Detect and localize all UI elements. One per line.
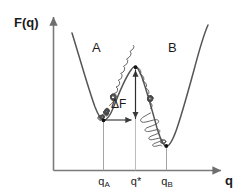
axis-group	[54, 17, 222, 171]
basin-a-minimum-marker	[102, 118, 106, 122]
wiggly-path-left-climb	[104, 108, 109, 116]
wiggly-crest-right	[137, 68, 152, 109]
tick-label-qa-sub: A	[104, 180, 109, 189]
wiggly-path-right-plateau	[141, 113, 162, 146]
tick-label-qb: qB	[161, 176, 172, 187]
barrier-height-label: ΔF	[111, 98, 126, 110]
basin-a-label: A	[92, 41, 101, 54]
tick-label-qb-sub: B	[167, 180, 172, 189]
x-axis-label: q	[225, 174, 233, 187]
transition-state-marker	[134, 65, 138, 69]
tick-label-qa: qA	[98, 176, 109, 187]
basin-b-label: B	[168, 41, 177, 54]
free-energy-diagram: F(q) q A B ΔF qA q* qB	[0, 0, 239, 195]
thermal-trajectory-a-to-barrier	[98, 67, 135, 120]
y-axis-label: F(q)	[14, 16, 39, 29]
tick-label-qstar: q*	[131, 176, 141, 187]
wiggly-path-right-descent	[147, 96, 153, 102]
wiggly-path-right-final	[160, 140, 166, 144]
basin-b-minimum-marker	[164, 144, 168, 148]
